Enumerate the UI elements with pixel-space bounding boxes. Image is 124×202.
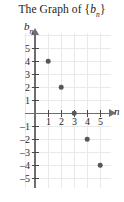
data-point (46, 59, 51, 64)
y-tick-label-4: 4 (14, 56, 30, 67)
x-axis-label: n (114, 105, 120, 117)
x-tick-label-5: 5 (94, 116, 108, 127)
figure-title-prefix: The Graph of { (18, 3, 90, 15)
y-axis-label-variable: b (24, 20, 30, 32)
y-tick-neg1 (32, 126, 39, 127)
y-tick-label-3: 3 (14, 69, 30, 80)
y-tick-label-neg4: –4 (11, 160, 30, 171)
y-tick-neg2 (32, 139, 39, 140)
y-tick-neg3 (32, 152, 39, 153)
y-tick-label-1: 1 (14, 95, 30, 106)
x-axis-line (25, 113, 111, 115)
y-tick-label-neg2: –2 (11, 134, 30, 145)
x-tick-label-2: 2 (55, 116, 69, 127)
y-tick-neg4 (32, 165, 39, 166)
y-tick-1 (32, 100, 39, 101)
figure-graph-of-bn: The Graph of {bn} (0, 0, 124, 202)
x-tick-label-4: 4 (81, 116, 95, 127)
data-point (59, 85, 64, 90)
y-axis-label-subscript: n (30, 27, 34, 36)
y-tick-label-5: 5 (14, 43, 30, 54)
data-point (85, 137, 90, 142)
figure-title-suffix: } (100, 3, 106, 15)
figure-title: The Graph of {bn} (0, 3, 124, 18)
y-tick-label-2: 2 (14, 82, 30, 93)
y-tick-label-neg1: –1 (11, 121, 30, 132)
data-point (98, 163, 103, 168)
plot-area: 1 2 3 4 5 5 4 3 2 1 –1 –2 –3 –4 –5 (25, 33, 111, 188)
y-tick-label-neg3: –3 (11, 147, 30, 158)
y-tick-3 (32, 74, 39, 75)
x-tick-label-3: 3 (68, 116, 82, 127)
y-tick-5 (32, 48, 39, 49)
y-tick-neg5 (32, 178, 39, 179)
y-tick-2 (32, 87, 39, 88)
y-tick-4 (32, 61, 39, 62)
y-tick-label-neg5: –5 (11, 173, 30, 184)
figure-title-subscript: n (96, 10, 100, 19)
y-axis-label: bn (24, 20, 33, 35)
x-tick-label-1: 1 (42, 116, 56, 127)
data-point (72, 111, 77, 116)
